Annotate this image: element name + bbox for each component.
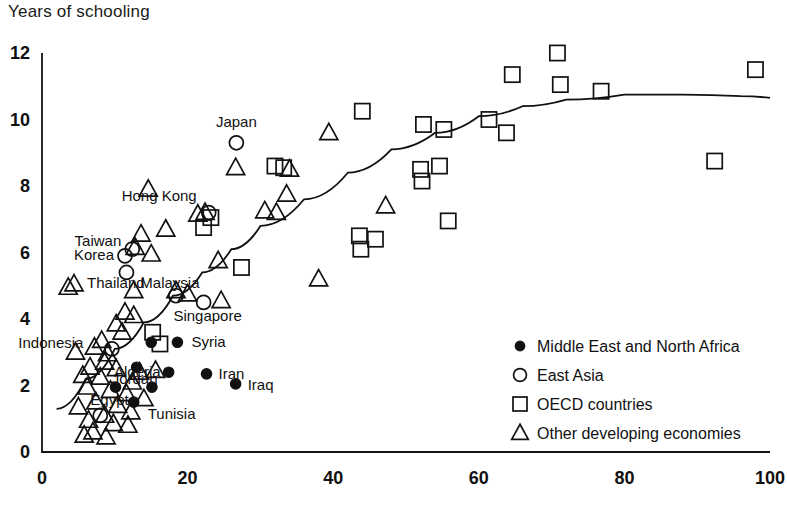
marker-open-triangle: [377, 196, 395, 212]
legend-marker-open-square: [513, 397, 527, 411]
marker-open-triangle: [227, 158, 245, 174]
x-tick-label: 100: [755, 468, 785, 488]
point-label: Iraq: [248, 376, 274, 393]
point-label: Thailand: [87, 274, 145, 291]
marker-open-square: [441, 213, 456, 228]
marker-filled-circle: [146, 337, 156, 347]
point-label: Malaysia: [140, 274, 200, 291]
marker-open-triangle: [278, 185, 296, 201]
marker-open-circle: [229, 136, 243, 150]
legend-label: OECD countries: [537, 396, 653, 413]
marker-open-square: [553, 77, 568, 92]
marker-open-square: [355, 104, 370, 119]
point-label: Japan: [216, 113, 257, 130]
x-tick-label: 60: [469, 468, 489, 488]
marker-open-square: [416, 117, 431, 132]
y-tick-label: 6: [20, 243, 30, 263]
y-tick-label: 4: [20, 309, 30, 329]
data-points: [59, 45, 763, 443]
point-label: Korea: [74, 246, 115, 263]
marker-open-square: [748, 62, 763, 77]
marker-open-triangle: [142, 245, 160, 261]
marker-open-triangle: [320, 123, 338, 139]
marker-open-triangle: [256, 201, 274, 217]
y-tick-label: 8: [20, 176, 30, 196]
marker-open-square: [368, 232, 383, 247]
point-label: Singapore: [173, 307, 241, 324]
marker-open-square: [432, 158, 447, 173]
marker-open-triangle: [157, 220, 175, 236]
series-oecd-countries: [145, 45, 763, 351]
marker-open-square: [550, 45, 565, 60]
marker-filled-circle: [201, 369, 211, 379]
y-tick-label: 12: [10, 43, 30, 63]
marker-open-square: [505, 67, 520, 82]
x-tick-label: 40: [323, 468, 343, 488]
point-label: Hong Kong: [122, 187, 197, 204]
marker-open-square: [436, 122, 451, 137]
fitted-curve: [57, 95, 770, 409]
y-tick-label: 10: [10, 110, 30, 130]
marker-open-triangle: [81, 358, 99, 374]
point-label: Indonesia: [18, 334, 84, 351]
y-axis-ticks: 024681012: [10, 43, 30, 462]
marker-open-triangle: [310, 270, 328, 286]
x-tick-label: 20: [178, 468, 198, 488]
legend-label: Middle East and North Africa: [537, 338, 740, 355]
x-tick-label: 80: [614, 468, 634, 488]
marker-open-square: [707, 153, 722, 168]
point-label: Egypt: [90, 391, 129, 408]
legend-marker-open-circle: [514, 369, 527, 382]
marker-open-square: [499, 125, 514, 140]
scatter-plot: 024681012 020406080100 JapanHong KongTai…: [0, 0, 787, 505]
marker-filled-circle: [172, 337, 182, 347]
point-label: Iran: [219, 365, 245, 382]
legend-marker-open-triangle: [512, 424, 529, 439]
x-tick-label: 0: [37, 468, 47, 488]
trend-line: [57, 95, 770, 409]
y-tick-label: 0: [20, 442, 30, 462]
marker-open-triangle: [212, 291, 230, 307]
legend-label: Other developing economies: [537, 425, 741, 442]
legend: Middle East and North AfricaEast AsiaOEC…: [512, 338, 741, 442]
point-label: Algeria: [114, 363, 161, 380]
point-label: Tunisia: [148, 405, 196, 422]
point-label: Syria: [191, 333, 226, 350]
x-axis-ticks: 020406080100: [37, 468, 785, 488]
legend-marker-filled-circle: [515, 341, 525, 351]
marker-open-square: [234, 260, 249, 275]
marker-filled-circle: [163, 367, 173, 377]
legend-label: East Asia: [537, 367, 604, 384]
y-tick-label: 2: [20, 376, 30, 396]
